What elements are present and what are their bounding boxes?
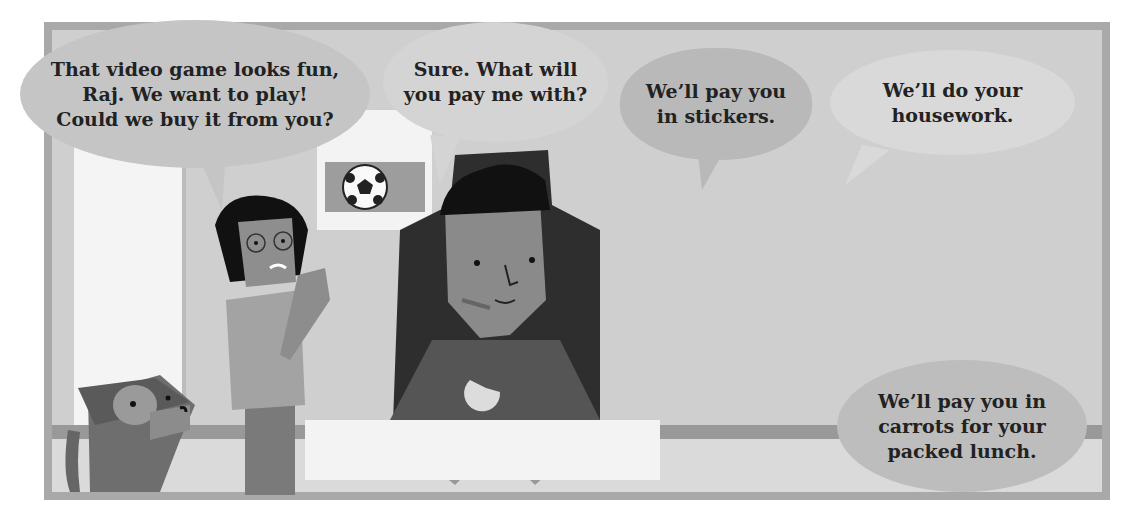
speech-bubble-girl-glasses: That video game looks fun,Raj. We want t…: [20, 20, 370, 168]
speech-bubble-boy-pointing: We’ll do yourhousework.: [830, 50, 1075, 155]
speech-bubble-girl-buns: We’ll pay you incarrots for yourpacked l…: [837, 360, 1087, 492]
speech-bubble-raj: Sure. What willyou pay me with?: [383, 22, 608, 142]
speech-bubble-blond-boy: We’ll pay youin stickers.: [620, 48, 812, 160]
desk: [305, 420, 660, 480]
dog: [65, 375, 195, 492]
soccer-ball-icon: [343, 165, 387, 209]
